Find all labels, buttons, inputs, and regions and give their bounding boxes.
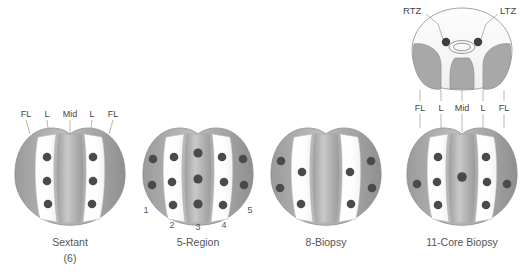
sextant-subcaption: (6): [64, 252, 77, 264]
sextant-core-3: [44, 200, 53, 209]
five-region-number-1: 1: [143, 205, 148, 215]
eight-biopsy-zone-l-right: [339, 134, 361, 222]
sextant-zone-label-mid: Mid: [63, 109, 78, 119]
eight-biopsy-core-fl-left-2: [276, 184, 285, 193]
five-region-number-2: 2: [169, 220, 174, 230]
eight-biopsy-core-l-right-1: [346, 168, 355, 177]
sextant-zone-label-l-right: L: [89, 109, 94, 119]
sextant-zone-label-fl-right: FL: [108, 109, 119, 119]
eleven-core-caption: 11-Core Biopsy: [426, 236, 498, 248]
five-region-core-fl-left-1: [149, 155, 158, 164]
eight-biopsy-core-fl-right-1: [367, 157, 376, 166]
eight-biopsy-zone-l-left: [291, 134, 313, 222]
zone-label-fl-left: FL: [415, 103, 426, 113]
scheme-eleven-core-biopsy: 11-Core Biopsy: [407, 128, 517, 248]
five-region-core-l-left-3: [169, 201, 178, 210]
rtz-label: RTZ: [403, 5, 421, 16]
scheme-sextant: FL L Mid L FL Sextant (6): [15, 109, 125, 264]
sextant-core-5: [89, 177, 98, 186]
sextant-core-2: [43, 177, 52, 186]
sextant-core-6: [88, 200, 97, 209]
eight-biopsy-caption: 8-Biopsy: [306, 236, 348, 248]
five-region-number-5: 5: [247, 205, 252, 215]
sextant-leader-fl-left: [26, 120, 30, 134]
eleven-core-zone-labels: FL L Mid L FL: [415, 103, 510, 132]
five-region-core-mid-1: [193, 148, 202, 157]
sextant-core-4: [89, 153, 98, 162]
transition-zone-core-right: [442, 38, 450, 46]
eleven-core-core-l-right-2: [483, 178, 492, 187]
scheme-five-region: 1 2 3 4 5 5-Region: [143, 128, 253, 248]
sextant-caption: Sextant: [52, 236, 88, 248]
zone-label-mid: Mid: [455, 103, 470, 113]
eight-biopsy-core-l-left-2: [297, 200, 306, 209]
eleven-core-core-l-left-1: [434, 153, 443, 162]
transverse-mid-zone: [450, 58, 474, 89]
eight-biopsy-core-fl-right-2: [368, 184, 377, 193]
eleven-core-core-l-left-2: [433, 178, 442, 187]
sextant-zone-label-l-left: L: [44, 109, 49, 119]
sextant-leader-fl-right: [109, 120, 113, 134]
sextant-core-1: [43, 153, 52, 162]
ltz-label: LTZ: [500, 5, 516, 16]
sextant-zone-label-fl-left: FL: [21, 109, 32, 119]
eleven-core-core-mid-1: [457, 172, 467, 182]
five-region-caption: 5-Region: [177, 236, 220, 248]
prostate-biopsy-schemes-figure: RTZ LTZ FL L Mid L FL FL L Mid L FL: [0, 0, 527, 278]
five-region-core-l-right-3: [219, 201, 228, 210]
five-region-core-mid-3: [193, 199, 202, 208]
five-region-core-l-right-1: [218, 153, 227, 162]
transition-zone-core-left: [474, 38, 482, 46]
transverse-prostate-cross-section: RTZ LTZ: [403, 5, 516, 101]
five-region-core-fl-right-1: [239, 155, 248, 164]
five-region-number-4: 4: [221, 220, 226, 230]
eight-biopsy-zone-mid: [313, 134, 339, 223]
eight-biopsy-core-l-right-2: [347, 200, 356, 209]
five-region-number-3: 3: [195, 222, 200, 232]
eight-biopsy-core-fl-left-1: [277, 157, 286, 166]
zone-label-l-left: L: [438, 103, 443, 113]
five-region-core-fl-right-2: [240, 181, 249, 190]
five-region-core-l-left-1: [170, 153, 179, 162]
sextant-zone-mid: [57, 134, 83, 223]
eleven-core-core-l-right-3: [482, 201, 491, 210]
eleven-core-core-l-left-3: [434, 201, 443, 210]
five-region-core-fl-left-2: [148, 181, 157, 190]
zone-label-fl-right: FL: [499, 103, 510, 113]
five-region-core-mid-2: [193, 174, 202, 183]
eleven-core-core-l-right-1: [482, 153, 491, 162]
eleven-core-core-fl-right-1: [503, 180, 512, 189]
zone-label-l-right: L: [480, 103, 485, 113]
five-region-core-l-left-2: [168, 178, 177, 187]
five-region-core-l-right-2: [220, 178, 229, 187]
scheme-eight-biopsy: 8-Biopsy: [271, 128, 381, 248]
eight-biopsy-core-l-left-1: [298, 168, 307, 177]
eleven-core-core-fl-left-1: [413, 180, 422, 189]
